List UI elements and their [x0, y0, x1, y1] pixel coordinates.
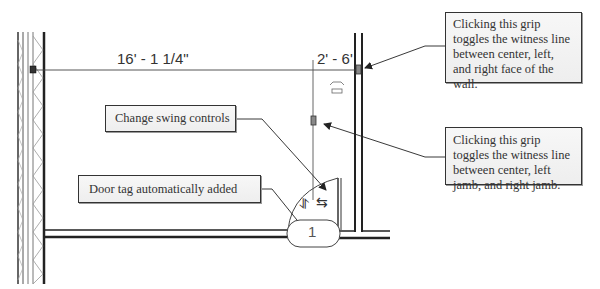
callout-jamb-grip: Clicking this grip toggles the witness l…: [445, 127, 582, 185]
callout-wall-grip: Clicking this grip toggles the witness l…: [445, 12, 582, 83]
wall-face-grip[interactable]: [356, 65, 361, 74]
overall-dimension-label[interactable]: 16' - 1 1/4": [117, 50, 189, 67]
dimension-lock-icon[interactable]: [330, 82, 344, 93]
flip-horizontal-icon[interactable]: ⇆: [316, 194, 328, 210]
callout-door-tag: Door tag automatically added: [78, 175, 261, 203]
door-offset-dimension-label[interactable]: 2' - 6': [317, 50, 353, 67]
door-placement-diagram: 16' - 1 1/4" 2' - 6' ⥯ ⇆ 1 Change swing …: [0, 0, 600, 289]
flip-vertical-icon[interactable]: ⥯: [299, 196, 309, 213]
right-wall: [355, 33, 362, 232]
callout-change-swing: Change swing controls: [105, 105, 236, 132]
door-tag-number: 1: [308, 223, 316, 240]
jamb-witness-grip[interactable]: [311, 116, 316, 125]
wall-witness-grip[interactable]: [30, 66, 36, 73]
